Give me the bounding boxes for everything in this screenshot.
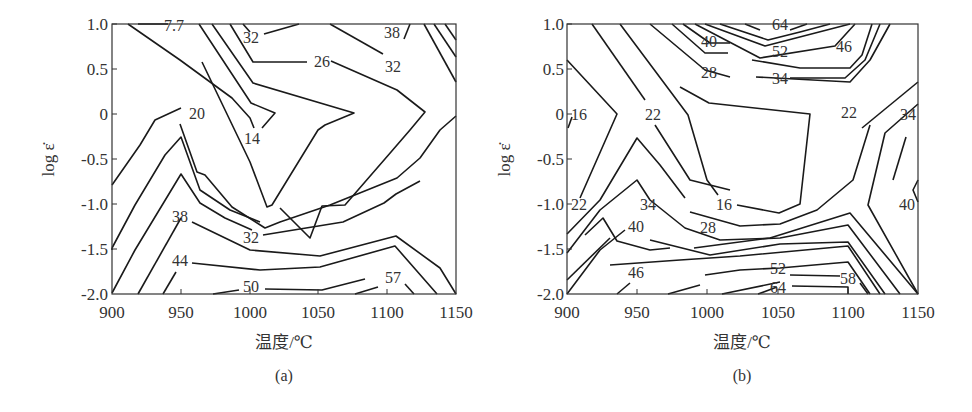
svg-text:-2.0: -2.0 bbox=[81, 285, 108, 304]
contour-label: 32 bbox=[243, 29, 259, 46]
chart-a: 7.7 32 38 26 32 20 14 38 32 44 50 57 bbox=[39, 15, 473, 385]
contour-label: 34 bbox=[900, 106, 916, 123]
svg-text:1000: 1000 bbox=[233, 303, 267, 322]
contour-label: 40 bbox=[899, 196, 915, 213]
contour-label: 34 bbox=[772, 70, 788, 87]
contour-label: 40 bbox=[628, 218, 644, 235]
svg-text:1150: 1150 bbox=[901, 303, 934, 322]
contour-label: 28 bbox=[701, 64, 717, 81]
svg-text:950: 950 bbox=[624, 303, 650, 322]
contour-label: 52 bbox=[772, 43, 788, 60]
contour-label: 16 bbox=[716, 196, 732, 213]
x-axis-label-b: 温度/℃ bbox=[713, 333, 771, 352]
contour-label: 34 bbox=[640, 196, 656, 213]
contour-label: 46 bbox=[628, 264, 644, 281]
y-axis-label-b: log ε̇ bbox=[495, 142, 514, 176]
contour-label: 50 bbox=[243, 278, 259, 295]
contour-lines-b bbox=[567, 24, 918, 294]
x-tick-labels-a: 900 950 1000 1050 1100 1150 bbox=[99, 303, 472, 322]
contour-label: 7.7 bbox=[164, 17, 184, 34]
svg-text:950: 950 bbox=[168, 303, 194, 322]
y-tick-labels-b: 1.0 0.5 0 -0.5 -1.0 -1.5 -2.0 bbox=[537, 15, 564, 304]
svg-text:900: 900 bbox=[99, 303, 125, 322]
svg-text:-1.0: -1.0 bbox=[537, 195, 564, 214]
y-axis-label-a: log ε̇ bbox=[39, 142, 58, 176]
svg-text:0.5: 0.5 bbox=[87, 60, 108, 79]
x-tick-labels-b: 900 950 1000 1050 1100 1150 bbox=[554, 303, 934, 322]
contour-label: 38 bbox=[384, 24, 400, 41]
y-tick-labels-a: 1.0 0.5 0 -0.5 -1.0 -1.5 -2.0 bbox=[81, 15, 108, 304]
svg-text:1150: 1150 bbox=[439, 303, 472, 322]
svg-text:-1.5: -1.5 bbox=[537, 240, 564, 259]
panel-label-a: (a) bbox=[275, 367, 293, 385]
svg-text:1100: 1100 bbox=[831, 303, 864, 322]
svg-text:1.0: 1.0 bbox=[543, 15, 564, 34]
svg-text:-1.5: -1.5 bbox=[81, 240, 108, 259]
contour-label: 32 bbox=[243, 229, 259, 246]
contour-label: 38 bbox=[172, 208, 188, 225]
contour-label: 44 bbox=[172, 252, 188, 269]
figure: 7.7 32 38 26 32 20 14 38 32 44 50 57 bbox=[0, 0, 972, 412]
svg-text:-0.5: -0.5 bbox=[81, 150, 108, 169]
contour-label: 26 bbox=[314, 53, 330, 70]
contour-label: 58 bbox=[840, 270, 856, 287]
contour-label: 40 bbox=[701, 33, 717, 50]
contour-label: 46 bbox=[836, 38, 852, 55]
x-axis-label-a: 温度/℃ bbox=[255, 333, 313, 352]
contour-label: 22 bbox=[645, 106, 661, 123]
svg-text:1000: 1000 bbox=[690, 303, 724, 322]
contour-lines-a bbox=[112, 24, 456, 294]
panel-label-b: (b) bbox=[733, 367, 752, 385]
svg-text:1050: 1050 bbox=[761, 303, 795, 322]
svg-text:0: 0 bbox=[556, 105, 565, 124]
svg-text:900: 900 bbox=[554, 303, 580, 322]
chart-b: 64 40 52 46 28 34 16 22 22 34 22 34 16 4… bbox=[495, 15, 935, 385]
svg-text:1.0: 1.0 bbox=[87, 15, 108, 34]
contour-label: 14 bbox=[244, 130, 260, 147]
y-ticks-b bbox=[567, 24, 572, 249]
svg-text:1100: 1100 bbox=[370, 303, 403, 322]
contour-label: 28 bbox=[700, 219, 716, 236]
y-ticks-a bbox=[112, 24, 117, 249]
contour-label: 32 bbox=[385, 58, 401, 75]
svg-text:0: 0 bbox=[100, 105, 109, 124]
svg-text:-1.0: -1.0 bbox=[81, 195, 108, 214]
contour-label: 57 bbox=[385, 269, 401, 286]
contour-label: 22 bbox=[571, 196, 587, 213]
contour-label: 22 bbox=[841, 104, 857, 121]
svg-text:-0.5: -0.5 bbox=[537, 150, 564, 169]
contour-label: 20 bbox=[189, 105, 205, 122]
svg-text:-2.0: -2.0 bbox=[537, 285, 564, 304]
contour-label: 52 bbox=[770, 260, 786, 277]
svg-text:0.5: 0.5 bbox=[543, 60, 564, 79]
svg-text:1050: 1050 bbox=[301, 303, 335, 322]
contour-labels-b: 64 40 52 46 28 34 16 22 22 34 22 34 16 4… bbox=[571, 16, 916, 296]
contour-label: 16 bbox=[571, 106, 587, 123]
